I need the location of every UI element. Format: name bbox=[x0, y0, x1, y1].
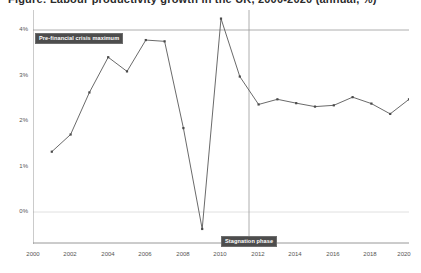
x-tick-label: 2010 bbox=[200, 251, 240, 257]
data-point bbox=[145, 39, 147, 41]
x-tick-label: 2002 bbox=[50, 251, 90, 257]
y-tick-label: 2% bbox=[6, 117, 28, 123]
pre-financial-crisis-maximum-label: Pre-financial crisis maximum bbox=[35, 33, 123, 44]
data-point bbox=[370, 103, 372, 105]
data-point bbox=[314, 106, 316, 108]
x-tick-label: 2012 bbox=[238, 251, 278, 257]
data-point bbox=[220, 17, 222, 19]
data-point bbox=[408, 98, 409, 100]
plot-area bbox=[33, 10, 409, 244]
data-point bbox=[333, 104, 335, 106]
data-point bbox=[295, 102, 297, 104]
x-tick-label: 2008 bbox=[163, 251, 203, 257]
data-point bbox=[389, 113, 391, 115]
data-point bbox=[51, 151, 53, 153]
data-point bbox=[126, 70, 128, 72]
x-tick-label: 2000 bbox=[13, 251, 53, 257]
x-tick-label: 2016 bbox=[313, 251, 353, 257]
x-tick-label: 2014 bbox=[275, 251, 315, 257]
data-point bbox=[164, 40, 166, 42]
data-point bbox=[352, 96, 354, 98]
y-tick-label: 0% bbox=[6, 208, 28, 214]
data-point-markers bbox=[51, 17, 409, 230]
x-tick-label: 2004 bbox=[88, 251, 128, 257]
y-tick-label: 3% bbox=[6, 72, 28, 78]
x-tick-label: 2006 bbox=[125, 251, 165, 257]
data-point bbox=[88, 91, 90, 93]
y-tick-label: 1% bbox=[6, 163, 28, 169]
stagnation-phase-label: Stagnation phase bbox=[221, 236, 277, 247]
data-point bbox=[70, 133, 72, 135]
data-point bbox=[201, 228, 203, 230]
data-point bbox=[258, 103, 260, 105]
line-chart-svg bbox=[33, 10, 409, 244]
data-point bbox=[276, 98, 278, 100]
data-point bbox=[239, 75, 241, 77]
y-tick-label: 4% bbox=[6, 26, 28, 32]
data-point bbox=[107, 56, 109, 58]
x-tick-label: 2020 bbox=[384, 251, 421, 257]
figure-container: Figure: Labour productivity growth in th… bbox=[0, 0, 421, 273]
figure-title: Figure: Labour productivity growth in th… bbox=[8, 0, 413, 5]
data-point bbox=[182, 127, 184, 129]
productivity-line bbox=[52, 19, 409, 229]
